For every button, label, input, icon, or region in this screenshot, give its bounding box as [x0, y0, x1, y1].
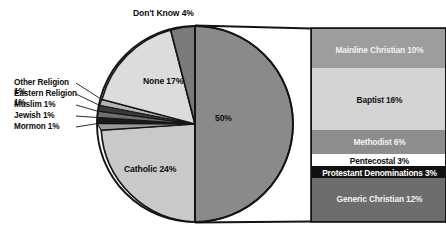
left-label-muslim: Muslim 1%	[14, 100, 55, 109]
panel-label-generic-christian: Generic Christian 12%	[312, 194, 446, 204]
panel-label-protestant-denominations: Protestant Denominations 3%	[312, 168, 446, 178]
pie-slice-christian	[195, 26, 293, 222]
pie-chart-figure: Mainline Christian 10% Baptist 16% Metho…	[0, 0, 446, 242]
pie-label-christian-fifty: 50%	[215, 114, 232, 123]
left-label-mormon: Mormon 1%	[14, 122, 60, 131]
pie-label-dont-know: Don't Know 4%	[133, 9, 194, 18]
panel-label-mainline-christian: Mainline Christian 10%	[312, 45, 446, 55]
pie-label-none: None 17%	[143, 77, 183, 86]
panel-label-pentecostal: Pentecostal 3%	[312, 156, 446, 166]
panel-label-methodist: Methodist 6%	[312, 137, 446, 147]
panel-label-baptist: Baptist 16%	[312, 95, 446, 105]
left-label-jewish: Jewish 1%	[14, 111, 55, 120]
exploded-panel: Mainline Christian 10% Baptist 16% Metho…	[311, 28, 446, 222]
pie-label-catholic: Catholic 24%	[124, 165, 176, 174]
connector-line-bottom	[195, 222, 311, 223]
pie-slices	[97, 26, 293, 222]
